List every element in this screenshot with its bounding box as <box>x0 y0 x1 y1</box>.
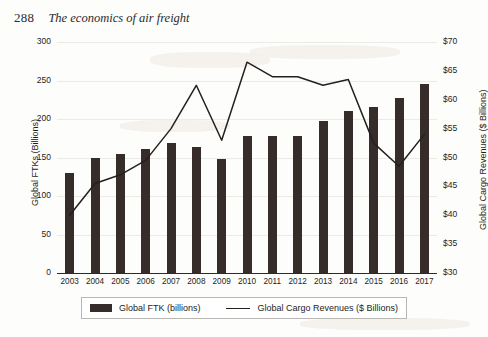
legend-label-ftk: Global FTK (billions) <box>119 303 201 313</box>
x-axis-line <box>57 273 437 274</box>
y2-axis-title: Global Cargo Revenues ($ Billions) <box>478 89 488 230</box>
line-series-layer <box>0 0 488 337</box>
page-canvas: 288 The economics of air freight 0501001… <box>0 0 488 337</box>
legend-item-bar: Global FTK (billions) <box>90 303 201 313</box>
legend-label-revenue: Global Cargo Revenues ($ Billions) <box>257 303 398 313</box>
revenue-line-path <box>70 62 425 215</box>
line-swatch-icon <box>226 308 250 309</box>
chart-legend: Global FTK (billions) Global Cargo Reven… <box>81 297 407 319</box>
bar-swatch-icon <box>90 304 112 312</box>
y-axis-title: Global FTKs (Billions) <box>30 118 40 205</box>
legend-item-line: Global Cargo Revenues ($ Billions) <box>226 303 398 313</box>
